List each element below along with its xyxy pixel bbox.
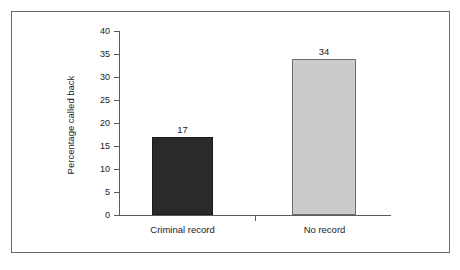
y-axis-tick-15 (114, 146, 119, 147)
y-axis-tick-label-40: 40 (88, 27, 110, 36)
y-axis-tick-5 (114, 192, 119, 193)
y-axis-line (119, 31, 120, 216)
y-axis-tick-40 (114, 31, 119, 32)
x-axis-label-criminal-record: Criminal record (132, 224, 233, 235)
y-axis-title: Percentage called back (64, 57, 78, 193)
y-axis-tick-label-0: 0 (88, 211, 110, 220)
y-axis-tick-label-5: 5 (88, 188, 110, 197)
y-axis-tick-20 (114, 123, 119, 124)
y-axis-tick-35 (114, 54, 119, 55)
y-axis-tick-label-35: 35 (88, 50, 110, 59)
x-axis-tick-midpoint (255, 216, 256, 221)
bar-value-label-criminal-record: 17 (152, 124, 213, 135)
bar-no-record[interactable] (292, 59, 356, 215)
bar-value-label-no-record: 34 (292, 46, 356, 57)
y-axis-tick-10 (114, 169, 119, 170)
y-axis-tick-25 (114, 100, 119, 101)
y-axis-tick-label-30: 30 (88, 73, 110, 82)
y-axis-tick-label-20: 20 (88, 119, 110, 128)
x-axis-label-no-record: No record (284, 224, 365, 235)
y-axis-tick-30 (114, 77, 119, 78)
bar-criminal-record[interactable] (152, 137, 213, 215)
y-axis-tick-label-10: 10 (88, 165, 110, 174)
y-axis-tick-label-25: 25 (88, 96, 110, 105)
y-axis-tick-labels: 0 5 10 15 20 25 30 35 40 (88, 0, 110, 270)
y-axis-tick-label-15: 15 (88, 142, 110, 151)
figure: 0 5 10 15 20 25 30 35 40 Percentage call… (0, 0, 460, 270)
